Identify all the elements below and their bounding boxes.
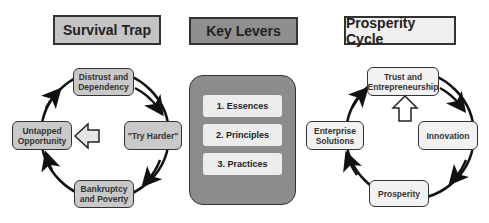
node-trust-entrepreneurship: Trust and Entrepreneurship: [367, 67, 439, 96]
key-levers-header: Key Levers: [189, 17, 298, 45]
arrow-up-icon: [393, 96, 417, 121]
lever-principles: 2. Principles: [203, 124, 282, 146]
survival-trap-header: Survival Trap: [53, 15, 161, 45]
node-untapped-opportunity: Untapped Opportunity: [12, 121, 72, 150]
node-try-harder: "Try Harder": [124, 121, 182, 150]
node-enterprise-solutions: Enterprise Solutions: [306, 121, 364, 150]
arrow-left-icon: [75, 124, 99, 148]
node-prosperity: Prosperity: [369, 180, 429, 207]
node-bankruptcy-poverty: Bankruptcy and Poverty: [74, 180, 134, 208]
lever-practices: 3. Practices: [203, 153, 282, 175]
lever-essences: 1. Essences: [203, 95, 282, 117]
prosperity-cycle-header: Prosperity Cycle: [344, 16, 456, 45]
node-distrust-dependency: Distrust and Dependency: [73, 68, 134, 96]
node-innovation: Innovation: [418, 121, 478, 150]
